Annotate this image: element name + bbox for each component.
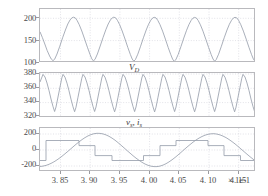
panel-vs-is-upper-plot-area [39,72,255,117]
panel-vs-is-label-i: , i [132,117,139,127]
panel-source-svg [40,128,255,171]
panel-source-tickmark-0 [36,149,39,150]
panel-vd-svg [40,9,255,62]
panel-source-tickmark-200 [36,133,39,134]
panel-vd-ytick-200: 200 [8,14,36,23]
panel-source-ytick-0: 0 [6,144,36,153]
panel-vs-is-upper-ytick-380: 380 [8,68,36,77]
panel-vd-ytick-150: 150 [8,36,36,45]
panel-source-ytick-neg200: -200 [6,160,36,169]
panel-source-xtickmark-6 [238,171,239,174]
panel-vd-hgrid [40,18,255,62]
panel-source-xtickmark-0 [60,171,61,174]
panel-source-ytick-200: 200 [6,128,36,137]
figure-root: 200 150 100 VD [0,0,268,196]
panel-vs-is-upper-tickmark-380 [36,73,39,74]
panel-vs-is-upper-ytick-360: 360 [8,82,36,91]
panel-vd-tickmark-150 [36,40,39,41]
panel-source-xtickmark-5 [208,171,209,174]
panel-vd-trace [40,17,255,61]
panel-vs-is-upper-tickmark-360 [36,87,39,88]
panel-source-staircase-trace [40,141,255,161]
panel-source-vgrid [61,128,239,171]
panel-vd-tickmark-200 [36,17,39,18]
panel-source-tickmark-neg200 [36,165,39,166]
panel-source-plot-area [39,127,255,171]
panel-source-xtickmark-4 [178,171,179,174]
panel-vs-is-upper-ytick-340: 340 [8,96,36,105]
panel-vs-is-upper-svg [40,73,255,117]
panel-source-xtickmark-2 [119,171,120,174]
x-axis-multiplier: × 1e-1 [228,176,250,185]
panel-vd-plot-area [39,8,255,62]
panel-vd-vgrid [61,9,239,62]
panel-source-xtickmark-1 [89,171,90,174]
panel-vs-is-upper-trace [40,74,255,112]
panel-vs-is-upper-hgrid [40,74,255,117]
panel-source-hgrid [40,134,255,166]
panel-source-xtickmark-3 [149,171,150,174]
panel-vs-is-upper-tickmark-340 [36,101,39,102]
